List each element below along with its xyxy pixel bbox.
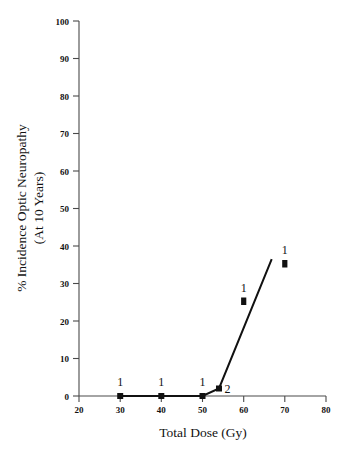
data-point-70gy — [282, 260, 287, 268]
x-tick-label-80: 80 — [322, 405, 332, 415]
y-axis: 100 90 80 70 60 50 40 30 20 10 0 — [56, 17, 80, 402]
x-tick-label-30: 30 — [116, 405, 126, 415]
annotation-70gy: 1 — [282, 243, 288, 257]
x-tick-label-60: 60 — [239, 405, 249, 415]
y-tick-label-40: 40 — [60, 242, 70, 252]
y-tick-label-50: 50 — [60, 204, 70, 214]
annotation-60gy: 1 — [241, 281, 247, 295]
data-point-60gy — [241, 298, 246, 306]
annotation-30gy: 1 — [117, 375, 123, 389]
y-tick-label-30: 30 — [60, 279, 70, 289]
y-tick-label-70: 70 — [60, 129, 70, 139]
data-point-40gy — [158, 393, 164, 399]
x-tick-label-50: 50 — [198, 405, 208, 415]
series-line — [120, 259, 272, 396]
x-tick-label-70: 70 — [280, 405, 290, 415]
y-axis-title-line1: % Incidence Optic Neuropathy — [14, 124, 29, 292]
annotation-40gy: 1 — [158, 375, 164, 389]
y-tick-label-10: 10 — [60, 354, 70, 364]
point-count-annotations: 1 1 1 2 1 1 — [117, 243, 288, 396]
y-axis-tick-labels: 100 90 80 70 60 50 40 30 20 10 0 — [56, 17, 70, 402]
y-tick-label-100: 100 — [56, 17, 70, 27]
data-point-50gy — [200, 393, 206, 399]
x-tick-label-40: 40 — [157, 405, 167, 415]
y-tick-label-0: 0 — [65, 392, 70, 402]
annotation-54gy: 2 — [225, 382, 231, 396]
chart-figure: 100 90 80 70 60 50 40 30 20 10 0 — [0, 0, 347, 449]
annotation-50gy: 1 — [200, 375, 206, 389]
y-axis-title-line2: (At 10 Years) — [31, 172, 46, 244]
y-axis-ticks — [73, 21, 79, 396]
y-tick-label-60: 60 — [60, 167, 70, 177]
y-tick-label-90: 90 — [60, 54, 70, 64]
y-tick-label-80: 80 — [60, 92, 70, 102]
data-point-54gy — [216, 386, 222, 392]
x-axis-tick-labels: 20 30 40 50 60 70 80 — [75, 405, 332, 415]
x-tick-label-20: 20 — [75, 405, 85, 415]
x-axis-title: Total Dose (Gy) — [159, 425, 247, 440]
y-tick-label-20: 20 — [60, 317, 70, 327]
chart-canvas: 100 90 80 70 60 50 40 30 20 10 0 — [0, 0, 347, 449]
data-point-30gy — [117, 393, 123, 399]
y-axis-title: % Incidence Optic Neuropathy (At 10 Year… — [14, 124, 46, 292]
